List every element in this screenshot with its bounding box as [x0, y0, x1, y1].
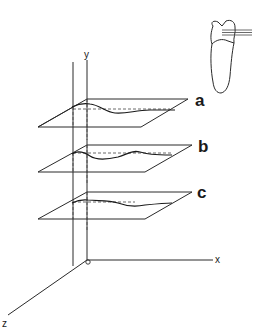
section-planes-diagram: y a b c — [0, 0, 262, 336]
plane-c — [38, 192, 192, 230]
z-axis — [8, 260, 87, 315]
y-axis-label: y — [84, 49, 89, 60]
plane-label-b: b — [198, 137, 208, 156]
plane-label-c: c — [197, 183, 206, 202]
z-axis-label: z — [2, 318, 7, 329]
plane-a — [38, 99, 188, 140]
tooth-icon — [211, 20, 252, 93]
plane-label-a: a — [195, 91, 205, 110]
x-axis-label: x — [215, 254, 220, 265]
plane-b — [38, 145, 192, 185]
